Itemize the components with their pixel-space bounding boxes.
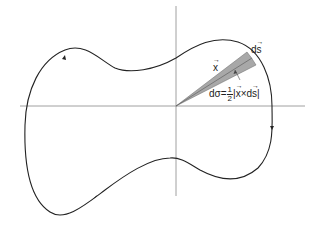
abs-close: | (257, 88, 260, 99)
label-x-vector: x (213, 63, 218, 73)
direction-arrow-icon (270, 126, 274, 130)
area-lhs: dσ= (209, 88, 227, 99)
rhs-s: s (252, 89, 257, 99)
x-vector-text: x (213, 63, 218, 73)
diagram-canvas (0, 0, 318, 225)
label-ds-vector: ds (251, 45, 262, 55)
direction-arrow-icon (62, 55, 66, 60)
ds-s: s (257, 45, 262, 55)
label-area-formula: dσ=12|x×ds| (209, 86, 260, 103)
rhs-x: x (236, 89, 241, 99)
